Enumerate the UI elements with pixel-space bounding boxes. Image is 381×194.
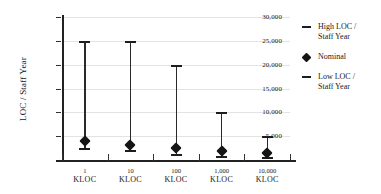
range-line xyxy=(84,41,85,148)
nominal-marker xyxy=(170,142,181,153)
legend-entry[interactable]: Low LOC / Staff Year xyxy=(302,72,381,92)
y-tick-label: 25,000 xyxy=(262,37,282,45)
low-value-cap xyxy=(171,154,182,156)
legend-entry[interactable]: High LOC / Staff Year xyxy=(302,22,381,42)
y-tick-label: 30,000 xyxy=(262,13,282,21)
chart-legend: High LOC / Staff YearNominalLow LOC / St… xyxy=(302,22,381,102)
x-label-value: 1 xyxy=(83,167,86,174)
chart-container: LOC / Staff Year -5,00010,00015,00020,00… xyxy=(0,0,381,194)
x-axis-tick xyxy=(290,154,291,161)
range-line xyxy=(176,65,177,154)
y-axis-line xyxy=(62,15,64,162)
x-axis-tick xyxy=(62,154,63,161)
nominal-marker xyxy=(125,139,136,150)
x-label-unit: KLOC xyxy=(237,175,297,184)
x-label-value: 10,000 xyxy=(258,167,276,174)
x-axis-tick xyxy=(199,154,200,161)
y-tick-label: 20,000 xyxy=(262,61,282,69)
legend-entry[interactable]: Nominal xyxy=(302,52,381,62)
legend-label: Low LOC / Staff Year xyxy=(318,72,381,92)
x-axis-tick xyxy=(244,154,245,161)
dash-icon xyxy=(302,76,311,78)
high-value-cap xyxy=(216,112,227,114)
x-axis-tick xyxy=(108,154,109,161)
high-value-cap xyxy=(125,41,136,43)
diamond-icon xyxy=(302,53,312,63)
dash-icon xyxy=(302,26,311,28)
high-value-cap xyxy=(171,65,182,67)
gridline xyxy=(62,17,290,18)
low-value-cap xyxy=(79,148,90,150)
x-label-value: 100 xyxy=(171,167,181,174)
x-axis-line xyxy=(56,160,296,162)
range-line xyxy=(130,41,131,150)
legend-label: High LOC / Staff Year xyxy=(318,22,381,42)
high-value-cap xyxy=(79,41,90,43)
y-tick-label: 15,000 xyxy=(262,85,282,93)
gridline xyxy=(62,41,290,42)
y-tick-mark xyxy=(56,112,61,113)
y-tick-mark xyxy=(56,89,61,90)
y-tick-mark xyxy=(56,136,61,137)
low-value-cap xyxy=(125,150,136,152)
y-tick-mark xyxy=(56,41,61,42)
x-axis-label: 10,000KLOC xyxy=(237,166,297,184)
x-axis-tick xyxy=(153,154,154,161)
y-tick-mark xyxy=(56,65,61,66)
y-tick-label: 10,000 xyxy=(262,108,282,116)
legend-label: Nominal xyxy=(318,52,381,62)
plot-area: -5,00010,00015,00020,00025,00030,000 xyxy=(62,17,290,160)
y-axis-title: LOC / Staff Year xyxy=(18,29,28,149)
high-value-cap xyxy=(262,136,273,138)
x-label-value: 1,000 xyxy=(214,167,229,174)
y-tick-mark xyxy=(56,17,61,18)
x-label-value: 10 xyxy=(127,167,134,174)
